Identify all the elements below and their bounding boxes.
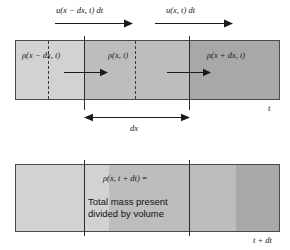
dx-extent-label: dx [130, 124, 138, 133]
bottom-time-label: t + dt [253, 236, 272, 245]
top-control-volume-box [15, 40, 280, 100]
bottom-solid-rule-right [189, 160, 190, 236]
description-line-1: Total mass present [88, 196, 168, 208]
density-center-label: ρ(x, t) [108, 51, 128, 60]
density-right-label: ρ(x + dx, t) [207, 51, 245, 60]
top-time-label: t [268, 104, 270, 113]
dashed-rule-center [135, 41, 136, 99]
right-flux-arrow [155, 19, 233, 28]
inner-arrow-left [64, 68, 108, 77]
bottom-solid-rule-left [84, 160, 85, 236]
bottom-density-expression: ρ(x, t + dt) = [103, 174, 148, 183]
left-flux-arrow [55, 19, 133, 28]
dx-measure-arrow [84, 113, 190, 122]
continuity-diagram: u(x − dx, t) dt u(x, t) dt ρ(x − dx, t) … [0, 0, 290, 250]
right-flux-label: u(x, t) dt [166, 6, 195, 15]
description-line-2: divided by volume [88, 208, 164, 220]
density-left-label: ρ(x − dx, t) [22, 51, 60, 60]
inner-arrow-right [167, 68, 211, 77]
band-dark-bottom [236, 165, 279, 231]
left-flux-label: u(x − dx, t) dt [56, 6, 103, 15]
